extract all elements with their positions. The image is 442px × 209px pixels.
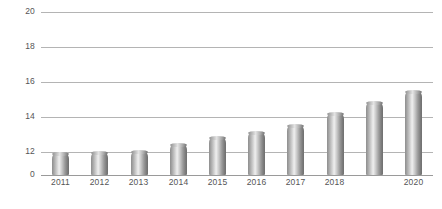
bar-cap [131, 150, 148, 154]
bar-2014 [170, 0, 187, 176]
x-tick-label-2011: 2011 [41, 178, 80, 187]
bar-2020 [405, 0, 422, 176]
x-tick-label-2020: 2020 [394, 178, 433, 187]
bar-2013 [131, 0, 148, 176]
bars-group [41, 0, 433, 176]
bar-body [52, 154, 69, 175]
x-tick-label-2013: 2013 [119, 178, 158, 187]
bar-body [248, 133, 265, 175]
bar-cap [91, 151, 108, 155]
y-tick-label-20: 20 [9, 7, 35, 16]
bar-body [91, 153, 108, 175]
bar-cap [287, 124, 304, 128]
bar-body [405, 92, 422, 175]
bar-chart: 01214161820 2011201220132014201520162017… [0, 0, 442, 209]
x-tick-label-2018: 2018 [315, 178, 354, 187]
bar-cap [405, 90, 422, 94]
y-tick-label-18: 18 [9, 42, 35, 51]
bar-2011 [52, 0, 69, 176]
x-tick-label-2017: 2017 [276, 178, 315, 187]
x-axis-tick-labels: 201120122013201420152016201720182020 [41, 178, 433, 198]
x-tick-label-2015: 2015 [198, 178, 237, 187]
bar-body [170, 145, 187, 175]
bar-cap [248, 131, 265, 135]
bar-body [287, 126, 304, 175]
bar-2015 [209, 0, 226, 176]
bar-body [327, 114, 344, 175]
bar-cap [209, 136, 226, 140]
bar-2012 [91, 0, 108, 176]
x-tick-label-2016: 2016 [237, 178, 276, 187]
bar-2019 [366, 0, 383, 176]
bar-cap [170, 143, 187, 147]
y-tick-label-12: 12 [9, 147, 35, 156]
x-tick-label-2014: 2014 [159, 178, 198, 187]
bar-body [366, 103, 383, 175]
bar-cap [327, 112, 344, 116]
bar-body [209, 138, 226, 175]
bar-cap [366, 101, 383, 105]
x-tick-label-2012: 2012 [80, 178, 119, 187]
y-tick-label-14: 14 [9, 112, 35, 121]
bar-body [131, 152, 148, 175]
bar-2018 [327, 0, 344, 176]
y-tick-label-16: 16 [9, 77, 35, 86]
bar-2016 [248, 0, 265, 176]
bar-2017 [287, 0, 304, 176]
bar-cap [52, 152, 69, 156]
y-tick-label-0: 0 [9, 170, 35, 179]
